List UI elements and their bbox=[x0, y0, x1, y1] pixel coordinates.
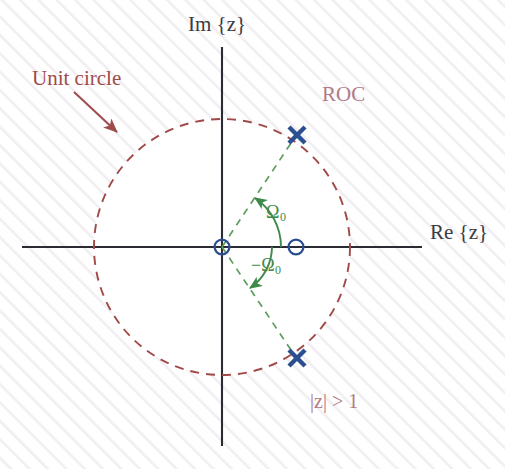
imaginary-axis-label: Im {z} bbox=[188, 14, 246, 35]
omega0-subscript: 0 bbox=[280, 210, 286, 224]
roc-condition-label: |z| > 1 bbox=[310, 391, 358, 411]
omega0-label: Ω0 bbox=[266, 203, 286, 223]
unit-circle-label: Unit circle bbox=[32, 68, 121, 89]
minus-omega0-symbol: −Ω bbox=[251, 255, 275, 275]
real-axis-label: Re {z} bbox=[430, 222, 488, 243]
minus-omega0-label: −Ω0 bbox=[251, 256, 281, 276]
roc-label: ROC bbox=[322, 84, 365, 105]
omega0-symbol: Ω bbox=[266, 202, 279, 222]
minus-omega0-subscript: 0 bbox=[275, 263, 281, 277]
z-plane-pole-zero-figure: Im {z} Re {z} Unit circle ROC |z| > 1 Ω0… bbox=[0, 0, 505, 469]
